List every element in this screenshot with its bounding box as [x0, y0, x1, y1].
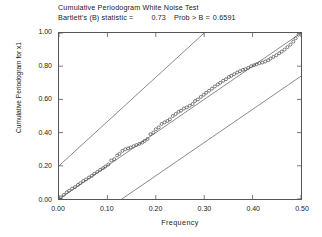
- statistic-label: Bartlett's (B) statistic =: [58, 13, 133, 23]
- data-point: [124, 148, 127, 151]
- plot-svg: [59, 33, 301, 199]
- data-point: [292, 40, 295, 43]
- data-point: [157, 126, 160, 129]
- chart-page: Cumulative Periodogram White Noise Test …: [0, 0, 322, 237]
- x-tick-label: 0.30: [189, 205, 219, 212]
- data-point: [185, 106, 188, 109]
- chart-title: Cumulative Periodogram White Noise Test: [58, 3, 318, 13]
- data-point: [239, 70, 242, 73]
- data-point: [280, 50, 283, 53]
- data-point: [205, 91, 208, 94]
- x-tick-label: 0.00: [43, 205, 73, 212]
- y-tick-label: 0.00: [26, 196, 52, 203]
- x-tick-label: 0.50: [287, 205, 317, 212]
- data-point: [132, 145, 135, 148]
- data-point: [224, 78, 227, 81]
- data-point: [163, 121, 166, 124]
- data-point: [219, 81, 222, 84]
- data-point: [191, 103, 194, 106]
- data-point: [149, 133, 152, 136]
- data-point: [222, 79, 225, 82]
- y-tick-label: 0.40: [26, 129, 52, 136]
- data-point: [269, 57, 272, 60]
- data-point: [168, 118, 171, 121]
- x-axis-label: Frequency: [58, 218, 302, 227]
- plot-frame: [58, 32, 302, 200]
- prob-label: Prob > B =: [174, 13, 210, 23]
- data-point: [182, 107, 185, 110]
- data-point: [121, 149, 124, 152]
- data-point: [174, 113, 177, 116]
- prob-value: 0.6591: [213, 13, 236, 23]
- data-point: [283, 48, 286, 51]
- y-axis-label: Cumulative Periodogram for x1: [15, 28, 22, 148]
- data-point: [210, 87, 213, 90]
- y-tick-label: 1.00: [26, 28, 52, 35]
- data-point: [272, 55, 275, 58]
- x-tick-label: 0.20: [141, 205, 171, 212]
- y-tick-label: 0.20: [26, 162, 52, 169]
- data-point: [208, 89, 211, 92]
- data-point: [294, 37, 297, 40]
- chart-title-block: Cumulative Periodogram White Noise Test …: [58, 3, 318, 22]
- data-point: [154, 128, 157, 131]
- data-point: [275, 54, 278, 57]
- data-point: [188, 104, 191, 107]
- data-point: [160, 122, 163, 125]
- data-point: [110, 159, 113, 162]
- data-point: [286, 46, 289, 49]
- data-point: [171, 115, 174, 118]
- data-point: [118, 152, 121, 155]
- data-point: [213, 85, 216, 88]
- center-diagonal: [59, 33, 301, 199]
- data-point: [289, 43, 292, 46]
- data-point: [199, 95, 202, 98]
- statistic-value: 0.73: [151, 13, 166, 23]
- upper-confidence-band: [59, 33, 204, 166]
- data-point: [258, 62, 261, 65]
- data-point: [236, 71, 239, 74]
- data-point: [113, 158, 116, 161]
- data-point: [264, 60, 267, 63]
- y-tick-label: 0.60: [26, 95, 52, 102]
- data-point: [233, 73, 236, 76]
- y-axis-label-wrap: Cumulative Periodogram for x1: [10, 32, 24, 200]
- data-point: [261, 61, 264, 64]
- data-point: [194, 100, 197, 103]
- y-tick-label: 0.80: [26, 62, 52, 69]
- chart-subtitle: Bartlett's (B) statistic = 0.73 Prob > B…: [58, 13, 318, 23]
- x-tick-label: 0.40: [238, 205, 268, 212]
- data-point: [196, 98, 199, 101]
- x-tick-label: 0.10: [92, 205, 122, 212]
- data-point: [152, 131, 155, 134]
